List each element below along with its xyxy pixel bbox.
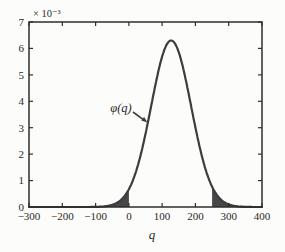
y-tick-label: 6 — [19, 42, 25, 54]
y-tick-label: 0 — [19, 201, 25, 213]
plot-area-border — [29, 22, 262, 207]
gaussian-curve — [29, 41, 262, 208]
chart-canvas: −300−200−1000100200300400 01234567 × 10⁻… — [0, 0, 285, 252]
y-tick-label: 3 — [19, 122, 25, 134]
x-axis-label: q — [149, 227, 156, 242]
annotation-arrow — [133, 112, 148, 123]
x-tick-label: 300 — [220, 210, 237, 222]
x-tick-label: 100 — [154, 210, 171, 222]
gaussian-density-figure: −300−200−1000100200300400 01234567 × 10⁻… — [0, 0, 285, 252]
axis-ticks — [29, 22, 262, 207]
density-curve-group — [29, 41, 262, 208]
x-tick-label: 0 — [126, 210, 132, 222]
y-tick-label: 4 — [19, 95, 25, 107]
y-tick-label: 5 — [19, 69, 25, 81]
y-tick-label: 2 — [19, 148, 25, 160]
y-axis-exponent-label: × 10⁻³ — [33, 8, 61, 19]
y-tick-label: 1 — [19, 174, 25, 186]
x-tick-label: 400 — [254, 210, 271, 222]
y-axis-tick-labels: 01234567 — [19, 16, 25, 213]
x-tick-label: 200 — [187, 210, 204, 222]
y-tick-label: 7 — [19, 16, 25, 28]
x-tick-label: −100 — [84, 210, 107, 222]
x-tick-label: −200 — [51, 210, 74, 222]
curve-annotation-label: φ(q) — [110, 101, 132, 115]
x-axis-tick-labels: −300−200−1000100200300400 — [18, 210, 271, 222]
annotation-arrow-line — [133, 112, 143, 119]
